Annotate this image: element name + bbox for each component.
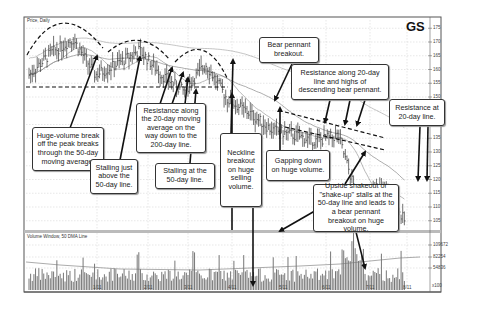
price-tick-label: 130 [433, 149, 441, 154]
callout-upside-shakeout: Upside shakeout or "shake-up" stalls at … [313, 184, 399, 232]
price-tick-label: 125 [433, 163, 441, 168]
callout-resistance-at-20day: Resistance at 20-day line. [389, 99, 445, 126]
date-tick-label: 7/11 [366, 285, 374, 290]
callout-gapping-down: Gapping down on huge volume. [266, 150, 330, 181]
price-tick-label: 160 [433, 67, 441, 72]
price-tick-label: 120 [433, 177, 441, 182]
date-tick-label: 1/11 [93, 285, 101, 290]
date-tick-label: 8/11 [403, 285, 411, 290]
date-tick-label: 4/11 [228, 285, 236, 290]
price-tick-label: 175 [433, 25, 441, 30]
date-tick-label: 6/11 [322, 285, 330, 290]
price-tick-label: 135 [433, 135, 441, 140]
date-tick-label: 3/11 [184, 285, 192, 290]
price-tick-label: 110 [433, 204, 440, 209]
price-panel-label: Price, Daily [27, 18, 50, 23]
volume-panel-label: Volume Window, 50 DMA Line [27, 234, 87, 239]
callout-stalling-just-above: Stalling just above the 50-day line. [90, 159, 138, 194]
volume-multiplier: x100 [432, 283, 442, 288]
volume-tick-label: 54836 [433, 265, 446, 270]
price-tick-label: 155 [433, 80, 441, 85]
callout-resistance-bear-pennant: Resistance along 20-day line and highs o… [291, 64, 389, 100]
callout-neckline-breakout: Neckline breakout on huge selling volume… [220, 133, 262, 207]
volume-tick-label: 109672 [433, 242, 448, 247]
volume-tick-label: 82254 [433, 254, 446, 259]
price-tick-label: 105 [433, 218, 441, 223]
ticker-symbol: GS [406, 19, 425, 34]
price-tick-label: 115 [433, 190, 440, 195]
date-tick-label: 2/11 [144, 285, 152, 290]
price-tick-label: 165 [433, 53, 441, 58]
callout-stalling-at-50: Stalling at the 50-day line. [155, 163, 215, 189]
date-tick-label: 5/11 [279, 285, 287, 290]
callout-bear-pennant-breakout: Bear pennant breakout. [259, 37, 319, 63]
callout-resistance-20day-to-200day: Resistance along the 20-day moving avera… [136, 103, 206, 153]
price-tick-label: 170 [433, 39, 441, 44]
